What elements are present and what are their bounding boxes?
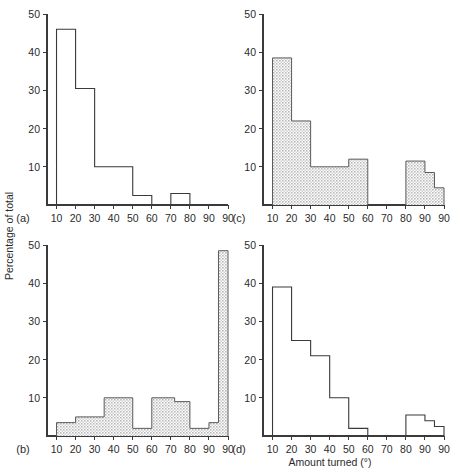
- y-tick-label: 10: [244, 392, 256, 404]
- y-tick-label: 20: [28, 123, 40, 135]
- histogram-bars: [406, 415, 444, 436]
- y-tick-label: 50: [244, 239, 256, 251]
- x-tick-label: 80: [400, 443, 412, 455]
- x-tick-label: 10: [267, 212, 279, 224]
- x-tick-label: 40: [108, 443, 120, 455]
- x-tick-label: 50: [127, 212, 139, 224]
- y-tick-label: 50: [28, 8, 40, 20]
- x-tick-label: 80: [184, 443, 196, 455]
- panel-label-a: (a): [16, 212, 29, 224]
- y-tick-label: 50: [244, 8, 256, 20]
- x-tick-label: 30: [305, 212, 317, 224]
- y-axis-title: Percentage of total: [3, 192, 15, 280]
- histogram-bars: [273, 58, 368, 205]
- panel-label-d: (d): [232, 443, 245, 455]
- x-tick-label: 30: [89, 443, 101, 455]
- x-tick-label: 60: [146, 443, 158, 455]
- x-tick-label: 20: [286, 212, 298, 224]
- x-tick-label: 30: [89, 212, 101, 224]
- histogram-bars: [273, 287, 368, 436]
- x-tick-label: 70: [165, 443, 177, 455]
- x-tick-label: 80: [184, 212, 196, 224]
- panel-d: 102030405010203040506070809090(d): [232, 239, 450, 455]
- x-tick-label: 60: [362, 443, 374, 455]
- x-tick-label: 20: [70, 212, 82, 224]
- x-tick-label: 60: [362, 212, 374, 224]
- x-axis-title: Amount turned (°): [289, 456, 372, 468]
- x-tick-label: 70: [381, 212, 393, 224]
- x-tick-label: 70: [381, 443, 393, 455]
- x-tick-label: 50: [343, 443, 355, 455]
- x-tick-label: 20: [286, 443, 298, 455]
- x-tick-label: 10: [267, 443, 279, 455]
- y-tick-label: 30: [28, 315, 40, 327]
- axis-lines: [47, 14, 228, 205]
- y-tick-label: 10: [244, 161, 256, 173]
- y-tick-label: 20: [244, 354, 256, 366]
- y-tick-label: 40: [28, 46, 40, 58]
- y-tick-label: 10: [28, 392, 40, 404]
- panel-label-c: (c): [233, 212, 246, 224]
- y-tick-label: 40: [244, 46, 256, 58]
- x-tick-label: 90: [419, 443, 431, 455]
- histogram-bars: [57, 251, 228, 436]
- y-tick-label: 40: [244, 277, 256, 289]
- y-tick-label: 20: [244, 123, 256, 135]
- x-tick-label: 50: [127, 443, 139, 455]
- y-tick-label: 20: [28, 354, 40, 366]
- x-tick-label: 90: [203, 212, 215, 224]
- x-tick-label: 30: [305, 443, 317, 455]
- x-tick-label: 90: [438, 443, 450, 455]
- histogram-outline: [57, 251, 228, 436]
- panel-c: 102030405010203040506070809090(c): [233, 8, 450, 224]
- x-tick-label: 90: [419, 212, 431, 224]
- y-tick-label: 30: [28, 84, 40, 96]
- y-tick-label: 50: [28, 239, 40, 251]
- y-tick-label: 40: [28, 277, 40, 289]
- panel-a: 102030405010203040506070809090(a): [16, 8, 234, 224]
- panel-b: 102030405010203040506070809090(b): [16, 239, 234, 455]
- x-tick-label: 80: [400, 212, 412, 224]
- x-tick-label: 70: [165, 212, 177, 224]
- y-tick-label: 30: [244, 315, 256, 327]
- x-tick-label: 90: [203, 443, 215, 455]
- x-tick-label: 10: [51, 212, 63, 224]
- x-tick-label: 60: [146, 212, 158, 224]
- x-tick-label: 10: [51, 443, 63, 455]
- x-tick-label: 90: [438, 212, 450, 224]
- y-tick-label: 10: [28, 161, 40, 173]
- x-tick-label: 50: [343, 212, 355, 224]
- panel-label-b: (b): [16, 443, 29, 455]
- axis-lines: [47, 245, 228, 436]
- x-tick-label: 40: [324, 212, 336, 224]
- histogram-figure: 102030405010203040506070809090(a)1020304…: [0, 0, 463, 472]
- histogram-bars: [57, 29, 152, 205]
- histogram-bars: [171, 194, 190, 205]
- figure-canvas: 102030405010203040506070809090(a)1020304…: [0, 0, 463, 472]
- axis-lines: [263, 245, 444, 436]
- x-tick-label: 40: [108, 212, 120, 224]
- x-tick-label: 40: [324, 443, 336, 455]
- x-tick-label: 20: [70, 443, 82, 455]
- y-tick-label: 30: [244, 84, 256, 96]
